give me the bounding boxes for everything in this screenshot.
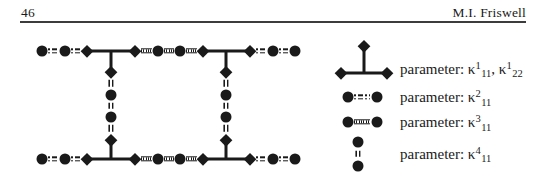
- connector-vdash: [108, 103, 113, 110]
- legend-label: parameter: κ111, κ122: [400, 60, 523, 77]
- mass-node-circle: [221, 89, 232, 100]
- mass-node-circle: [175, 46, 186, 57]
- connector-dashdot-line: [256, 160, 267, 162]
- connector-dashdot-line: [256, 52, 267, 54]
- connector-dotted: [186, 48, 197, 53]
- connector-dashdot-line: [71, 160, 82, 162]
- mass-node-circle: [37, 46, 48, 57]
- joint-node-diamond: [129, 45, 141, 57]
- connector-dashdot-line: [279, 156, 290, 158]
- connector-dashdot-line: [354, 98, 370, 100]
- connector-dashdot: [279, 156, 290, 161]
- connector-vdash: [224, 125, 229, 132]
- connector-dashdot-line: [279, 52, 290, 54]
- connector-dashdot-line: [48, 52, 59, 54]
- connector-dotted: [164, 156, 175, 161]
- mass-node-circle: [353, 136, 364, 147]
- mass-node-circle: [152, 46, 163, 57]
- connector-dashdot: [279, 48, 290, 53]
- connector-vdash: [224, 80, 229, 87]
- connector-vdash: [108, 80, 113, 87]
- connector-dashdot-line: [71, 52, 82, 54]
- mass-node-circle: [59, 154, 70, 165]
- connector-dashdot: [256, 48, 267, 53]
- mass-node-circle: [290, 154, 301, 165]
- mass-node-circle: [371, 117, 382, 128]
- mass-node-circle: [371, 92, 382, 103]
- mass-node-circle: [106, 112, 117, 123]
- legend-label-sup: 1: [475, 59, 480, 70]
- connector-dashdot-line: [354, 94, 370, 96]
- connector-dashdot-line: [48, 48, 59, 50]
- legend-label-sup: 2: [475, 88, 480, 99]
- joint-node-diamond: [244, 153, 256, 165]
- connector-vdash: [224, 103, 229, 110]
- legend-label-sub: 11: [481, 96, 491, 107]
- mass-node-circle: [353, 160, 364, 171]
- connector-dashdot-line: [48, 156, 59, 158]
- joint-node-diamond: [334, 67, 346, 79]
- legend-label-sup: 4: [475, 144, 480, 155]
- joint-node-diamond: [220, 133, 232, 145]
- joint-node-diamond: [129, 153, 141, 165]
- connector-vdash: [355, 150, 360, 157]
- legend-label-sub: 22: [512, 68, 523, 79]
- connector-dotted: [186, 156, 197, 161]
- joint-node-diamond: [244, 45, 256, 57]
- mass-node-circle: [221, 112, 232, 123]
- connector-dotted: [164, 48, 175, 53]
- connector-dotted: [141, 48, 152, 53]
- mass-node-circle: [267, 154, 278, 165]
- mass-node-circle: [267, 46, 278, 57]
- joint-node-diamond: [196, 153, 208, 165]
- document-page: 46 M.I. Friswell parameter: κ111, κ122pa…: [0, 0, 543, 179]
- connector-dashdot-line: [279, 48, 290, 50]
- connector-dotted: [354, 119, 370, 124]
- legend-label-text: parameter: κ: [400, 145, 475, 161]
- legend-label-text: parameter: κ: [400, 89, 475, 105]
- connector-dashdot: [354, 94, 370, 99]
- legend-label-sub: 11: [481, 153, 491, 164]
- legend-label-sub: 11: [481, 68, 491, 79]
- legend-label: parameter: κ411: [400, 145, 491, 162]
- joint-node-diamond: [81, 45, 93, 57]
- legend-label-text: , κ: [491, 60, 506, 76]
- connector-dashdot: [48, 48, 59, 53]
- mass-node-circle: [152, 154, 163, 165]
- mass-node-circle: [175, 154, 186, 165]
- connector-dashdot-line: [256, 48, 267, 50]
- connector-dashdot: [48, 156, 59, 161]
- connector-dashdot-line: [71, 156, 82, 158]
- joint-node-diamond: [220, 66, 232, 78]
- connector-dashdot: [71, 156, 82, 161]
- connector-dashdot: [256, 156, 267, 161]
- legend-label-sub: 11: [481, 121, 491, 132]
- joint-node-diamond: [381, 67, 393, 79]
- connector-dashdot-line: [279, 160, 290, 162]
- mass-node-circle: [37, 154, 48, 165]
- legend-label-sup: 3: [475, 113, 480, 124]
- joint-node-diamond: [105, 133, 117, 145]
- connector-dashdot-line: [71, 48, 82, 50]
- legend-label: parameter: κ211: [400, 89, 491, 106]
- connector-dashdot-line: [48, 160, 59, 162]
- legend-label-sup: 1: [506, 59, 511, 70]
- mass-node-circle: [342, 92, 353, 103]
- joint-node-diamond: [196, 45, 208, 57]
- legend-label-text: parameter: κ: [400, 114, 475, 130]
- legend-label: parameter: κ311: [400, 114, 491, 131]
- frame-structure-figure: parameter: κ111, κ122parameter: κ211para…: [0, 0, 543, 179]
- mass-node-circle: [342, 117, 353, 128]
- mass-node-circle: [106, 89, 117, 100]
- legend-label-text: parameter: κ: [400, 60, 475, 76]
- connector-vdash: [108, 125, 113, 132]
- connector-dotted: [141, 156, 152, 161]
- connector-dashdot-line: [256, 156, 267, 158]
- joint-node-diamond: [81, 153, 93, 165]
- connector-dashdot: [71, 48, 82, 53]
- joint-node-diamond: [105, 66, 117, 78]
- joint-node-diamond: [358, 40, 370, 52]
- mass-node-circle: [59, 46, 70, 57]
- mass-node-circle: [290, 46, 301, 57]
